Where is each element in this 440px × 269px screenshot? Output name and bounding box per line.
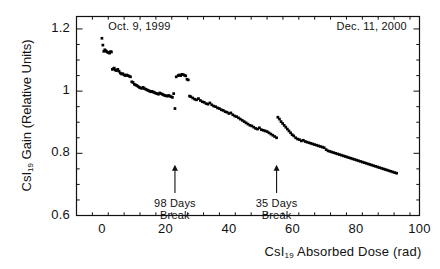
x-tick-label: 40 (209, 221, 249, 236)
annotation-break-1-line2: Break (135, 209, 215, 221)
annotation-break-2-line1: 35 Days (237, 197, 317, 209)
annotation-break-2-line2: Break (237, 209, 317, 221)
annotation-end-date: Dec. 11, 2000 (0, 20, 407, 32)
annotation-break-1-line1: 98 Days (135, 197, 215, 209)
data-series-points (101, 37, 398, 175)
annotation-break-1: 98 Days Break (135, 197, 215, 221)
y-tick-label: 0.6 (28, 207, 70, 222)
x-tick-label: 80 (336, 221, 376, 236)
subscript: 19 (26, 163, 35, 172)
y-tick-label: 1 (28, 82, 70, 97)
break-arrows (172, 165, 280, 193)
plot-frame (77, 17, 420, 216)
subscript: 19 (285, 251, 294, 260)
x-axis-title: CsI19 Absorbed Dose (rad) (0, 244, 422, 259)
y-axis-title: CsI19 Gain (Relative Units) (19, 26, 34, 206)
figure: 020406080100 0.60.811.2 Oct. 9, 1999 Dec… (0, 0, 440, 269)
y-tick-label: 0.8 (28, 144, 70, 159)
axis-ticks (77, 17, 420, 216)
x-tick-label: 0 (82, 221, 122, 236)
annotation-break-2: 35 Days Break (237, 197, 317, 221)
x-tick-label: 100 (400, 221, 440, 236)
x-tick-label: 60 (272, 221, 312, 236)
x-tick-label: 20 (145, 221, 185, 236)
